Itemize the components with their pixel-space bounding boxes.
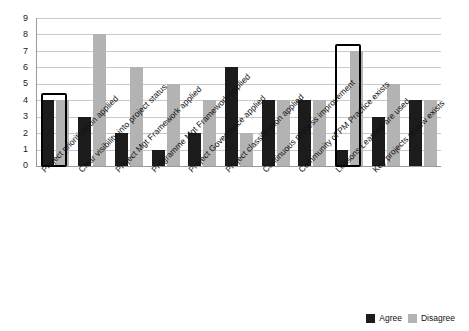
legend-label-disagree: Disagree xyxy=(421,313,455,323)
y-tick-label: 8 xyxy=(0,30,28,39)
legend-item-disagree: Disagree xyxy=(408,313,455,323)
y-tick-label: 0 xyxy=(0,161,28,170)
y-tick-label: 7 xyxy=(0,47,28,56)
legend-swatch-agree xyxy=(366,314,375,323)
bar-group xyxy=(404,18,441,166)
y-tick-label: 9 xyxy=(0,14,28,23)
legend-item-agree: Agree xyxy=(366,313,402,323)
y-tick-label: 4 xyxy=(0,96,28,105)
y-tick-label: 6 xyxy=(0,63,28,72)
legend-swatch-disagree xyxy=(408,314,417,323)
y-tick-label: 5 xyxy=(0,79,28,88)
y-tick-label: 1 xyxy=(0,145,28,154)
legend-label-agree: Agree xyxy=(379,313,402,323)
y-tick-label: 2 xyxy=(0,129,28,138)
chart-legend: Agree Disagree xyxy=(366,313,455,323)
x-axis-labels: Project prioritisation applied Clear vis… xyxy=(36,168,440,278)
bar-chart: 9 8 7 6 5 4 3 2 1 0 xyxy=(0,0,469,331)
y-tick-label: 3 xyxy=(0,112,28,121)
